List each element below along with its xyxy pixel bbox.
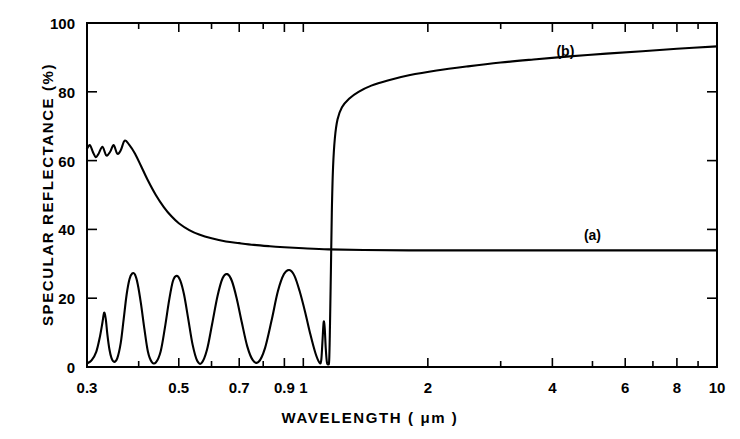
y-tick-label: 100 xyxy=(20,15,75,32)
x-tick-label: 10 xyxy=(709,379,726,396)
x-tick-label: 2 xyxy=(424,379,432,396)
y-axis-title: SPECULAR REFLECTANCE (%) xyxy=(39,30,56,360)
x-axis-title: WAVELENGTH ( μm ) xyxy=(0,409,740,426)
y-tick-label: 40 xyxy=(20,221,75,238)
x-tick-label: 0.9 xyxy=(274,379,295,396)
x-tick-label: 0.3 xyxy=(77,379,98,396)
x-tick-label: 4 xyxy=(548,379,556,396)
plot-background xyxy=(0,0,740,439)
reflectance-plot xyxy=(0,0,740,439)
curve-annotation-a: (a) xyxy=(584,227,601,243)
x-tick-label: 0.5 xyxy=(168,379,189,396)
figure-container: SPECULAR REFLECTANCE (%) WAVELENGTH ( μm… xyxy=(0,0,740,439)
x-tick-label: 6 xyxy=(621,379,629,396)
y-tick-label: 20 xyxy=(20,290,75,307)
x-tick-label: 0.7 xyxy=(229,379,250,396)
x-tick-label: 1 xyxy=(299,379,307,396)
y-tick-label: 60 xyxy=(20,152,75,169)
y-tick-label: 80 xyxy=(20,83,75,100)
curve-annotation-b: (b) xyxy=(556,43,574,59)
x-tick-label: 8 xyxy=(673,379,681,396)
y-tick-label: 0 xyxy=(20,359,75,376)
